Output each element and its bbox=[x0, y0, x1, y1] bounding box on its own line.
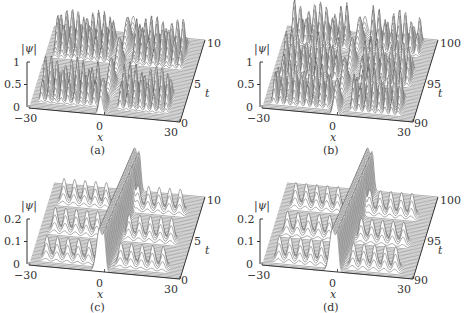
x-axis-label: x bbox=[97, 289, 103, 300]
z-tick-top: 0.2 bbox=[4, 214, 22, 225]
t-axis-label: t bbox=[205, 245, 209, 256]
t-tick-start: 90 bbox=[414, 275, 428, 286]
x-tick-left: −30 bbox=[247, 270, 270, 281]
t-tick-start: 0 bbox=[181, 118, 188, 129]
t-axis-label: t bbox=[438, 245, 442, 256]
x-tick-right: 30 bbox=[397, 127, 411, 138]
x-axis-label: x bbox=[97, 132, 103, 143]
t-tick-mid: 5 bbox=[194, 79, 201, 90]
panel-b bbox=[257, 0, 438, 122]
z-tick-mid: 0.5 bbox=[4, 79, 22, 90]
waterfall-plots bbox=[0, 0, 466, 313]
panel-c bbox=[24, 148, 205, 279]
x-tick-left: −30 bbox=[14, 113, 37, 124]
z-tick-mid: 0.5 bbox=[237, 79, 255, 90]
panel-d bbox=[257, 148, 438, 279]
panel-caption: (d) bbox=[323, 302, 339, 313]
t-tick-end: 10 bbox=[207, 195, 221, 206]
x-axis-label: x bbox=[330, 132, 336, 143]
z-axis-label: |ψ| bbox=[254, 200, 270, 211]
t-axis-label: t bbox=[438, 88, 442, 99]
x-tick-left: −30 bbox=[247, 113, 270, 124]
panel-caption: (c) bbox=[90, 302, 105, 313]
x-axis-label: x bbox=[330, 289, 336, 300]
z-tick-mid: 0.1 bbox=[237, 236, 255, 247]
t-tick-mid: 5 bbox=[194, 236, 201, 247]
t-axis-label: t bbox=[205, 88, 209, 99]
t-tick-end: 10 bbox=[207, 38, 221, 49]
x-tick-right: 30 bbox=[164, 284, 178, 295]
t-tick-end: 100 bbox=[440, 195, 461, 206]
z-tick-top: 1 bbox=[13, 57, 20, 68]
z-axis-label: |ψ| bbox=[21, 200, 37, 211]
panel-a bbox=[24, 9, 205, 122]
t-tick-end: 100 bbox=[440, 38, 461, 49]
figure: |ψ|10.50−300x30(a)0510t|ψ|10.50−300x30(b… bbox=[0, 0, 466, 313]
x-tick-right: 30 bbox=[164, 127, 178, 138]
x-tick-right: 30 bbox=[397, 284, 411, 295]
z-axis-label: |ψ| bbox=[21, 43, 37, 54]
t-tick-start: 90 bbox=[414, 118, 428, 129]
z-axis-label: |ψ| bbox=[254, 43, 270, 54]
z-tick-mid: 0.1 bbox=[4, 236, 22, 247]
z-tick-top: 1 bbox=[246, 57, 253, 68]
x-tick-left: −30 bbox=[14, 270, 37, 281]
panel-caption: (a) bbox=[90, 145, 105, 156]
t-tick-start: 0 bbox=[181, 275, 188, 286]
panel-caption: (b) bbox=[323, 145, 339, 156]
z-tick-top: 0.2 bbox=[237, 214, 255, 225]
